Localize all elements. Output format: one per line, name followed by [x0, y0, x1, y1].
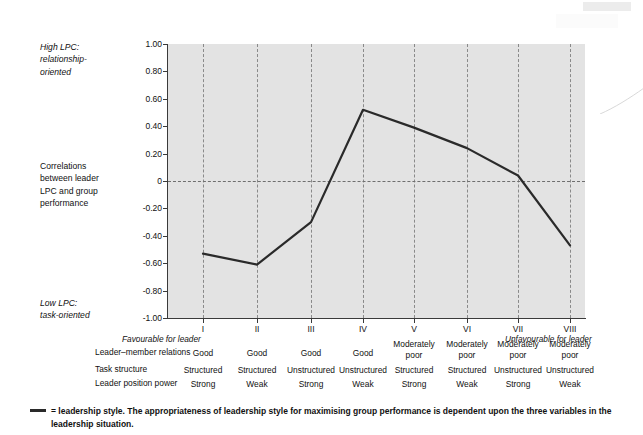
- y-tick-label-10: -1.00: [118, 314, 162, 323]
- table-cell: Structured: [172, 365, 234, 376]
- x-tick-label-iv: IV: [343, 325, 383, 334]
- y-tick-label-4: 0.20: [118, 150, 162, 159]
- x-tick-mark-ii: [257, 319, 258, 323]
- table-cell: Structured: [226, 365, 288, 376]
- y-tick-mark-4: [163, 154, 168, 155]
- table-row-label-2: Leader position power: [95, 379, 177, 387]
- y-tick-mark-7: [163, 236, 168, 237]
- y-tick-mark-8: [163, 263, 168, 264]
- y-tick-label-1: 0.80: [118, 67, 162, 76]
- x-tick-label-vii: VII: [498, 325, 538, 334]
- y-tick-label-6: -0.20: [118, 204, 162, 213]
- plot-area: [168, 44, 585, 318]
- leadership-style-line: [168, 44, 585, 318]
- y-tick-label-5: 0: [118, 177, 162, 186]
- x-tick-mark-vi: [467, 319, 468, 323]
- situational-variables-table: Situational variables Leader–member rela…: [0, 343, 643, 395]
- x-tick-mark-iv: [363, 319, 364, 323]
- axis-title-l1: Correlations: [40, 160, 160, 172]
- x-tick-label-ii: II: [237, 325, 277, 334]
- y-tick-label-2: 0.60: [118, 95, 162, 104]
- x-tick-label-i: I: [183, 325, 223, 334]
- y-tick-label-3: 0.40: [118, 122, 162, 131]
- y-tick-mark-3: [163, 126, 168, 127]
- x-tick-mark-i: [203, 319, 204, 323]
- y-tick-label-7: -0.40: [118, 232, 162, 241]
- y-tick-label-0: 1.00: [118, 40, 162, 49]
- y-tick-mark-6: [163, 208, 168, 209]
- page-artifact-top-right: [583, 2, 631, 11]
- page-artifact-right-edge: [600, 88, 643, 114]
- axis-note-low-lpc-l1: Low LPC:: [40, 297, 160, 309]
- x-tick-label-viii: VIII: [550, 325, 590, 334]
- table-cell: Good: [226, 348, 288, 359]
- x-tick-mark-viii: [570, 319, 571, 323]
- table-cell: Strong: [172, 379, 234, 390]
- axis-title-l3: LPC and group: [40, 185, 160, 197]
- table-cell: Unstructured: [539, 365, 601, 376]
- y-tick-mark-10: [163, 318, 168, 319]
- x-tick-mark-v: [414, 319, 415, 323]
- caption-line-2: leadership situation.: [51, 419, 134, 429]
- legend-line-swatch: [30, 409, 46, 412]
- y-tick-label-8: -0.60: [118, 259, 162, 268]
- x-tick-label-vi: VI: [447, 325, 487, 334]
- x-axis-line: [167, 318, 586, 319]
- y-tick-mark-1: [163, 71, 168, 72]
- y-tick-label-9: -0.80: [118, 287, 162, 296]
- y-tick-mark-9: [163, 291, 168, 292]
- figure-root: High LPC: relationship- oriented Correla…: [0, 0, 643, 435]
- y-tick-mark-5: [163, 181, 168, 182]
- x-tick-label-iii: III: [291, 325, 331, 334]
- y-tick-mark-0: [163, 44, 168, 45]
- table-cell: Moderatelypoor: [539, 339, 601, 360]
- x-tick-mark-vii: [518, 319, 519, 323]
- table-cell: Good: [172, 348, 234, 359]
- y-tick-mark-2: [163, 99, 168, 100]
- table-row-label-1: Task structure: [95, 365, 147, 373]
- table-cell: Weak: [539, 379, 601, 390]
- caption-line-1: = leadership style. The appropriateness …: [51, 404, 626, 419]
- page-artifact-top-right-2: [556, 14, 618, 28]
- table-cell: Weak: [226, 379, 288, 390]
- x-tick-mark-iii: [311, 319, 312, 323]
- axis-note-high-lpc-l2: relationship-: [40, 53, 160, 65]
- x-tick-label-v: V: [394, 325, 434, 334]
